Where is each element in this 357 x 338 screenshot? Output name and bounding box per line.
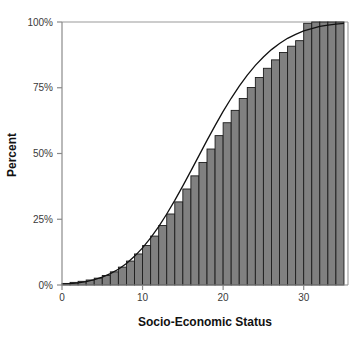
histogram-bar xyxy=(263,68,271,285)
histogram-bar xyxy=(118,267,126,285)
cumulative-histogram-chart: 0%25%50%75%100% 0102030 Socio-Economic S… xyxy=(0,0,357,338)
x-axis-title: Socio-Economic Status xyxy=(138,315,272,329)
histogram-bar xyxy=(159,226,167,285)
x-tick-label: 10 xyxy=(137,292,149,303)
x-tick-label: 20 xyxy=(218,292,230,303)
histogram-bar xyxy=(126,261,134,285)
y-axis-ticks: 0%25%50%75%100% xyxy=(27,17,62,291)
chart-container: 0%25%50%75%100% 0102030 Socio-Economic S… xyxy=(0,0,357,338)
histogram-bar xyxy=(199,162,207,285)
histogram-bar xyxy=(271,60,279,285)
histogram-bar xyxy=(191,176,199,285)
histogram-bar xyxy=(239,99,247,285)
y-tick-label: 100% xyxy=(27,17,53,28)
histogram-bar xyxy=(304,23,312,285)
x-tick-label: 30 xyxy=(298,292,310,303)
histogram-bar xyxy=(312,22,320,285)
x-axis-ticks: 0102030 xyxy=(59,285,309,303)
histogram-bar xyxy=(247,87,255,285)
histogram-bar xyxy=(207,149,215,285)
histogram-bar xyxy=(328,22,336,285)
histogram-bar xyxy=(175,202,183,285)
histogram-bar xyxy=(255,77,263,285)
histogram-bar xyxy=(215,136,223,285)
y-tick-label: 75% xyxy=(33,82,53,93)
histogram-bar xyxy=(280,53,288,285)
histogram-bar xyxy=(167,214,175,285)
histogram-bar xyxy=(135,254,143,285)
y-tick-label: 50% xyxy=(33,148,53,159)
histogram-bar xyxy=(143,246,151,285)
histogram-bar xyxy=(110,272,118,285)
histogram-bar xyxy=(320,22,328,285)
histogram-bar xyxy=(231,110,239,285)
histogram-bar xyxy=(151,236,159,285)
y-axis-title: Percent xyxy=(5,133,19,177)
histogram-bar xyxy=(296,41,304,285)
x-tick-label: 0 xyxy=(59,292,65,303)
histogram-bar xyxy=(223,123,231,285)
histogram-bar xyxy=(183,189,191,285)
y-tick-label: 25% xyxy=(33,214,53,225)
y-tick-label: 0% xyxy=(39,280,54,291)
histogram-bar xyxy=(336,22,344,285)
histogram-bar xyxy=(288,46,296,285)
